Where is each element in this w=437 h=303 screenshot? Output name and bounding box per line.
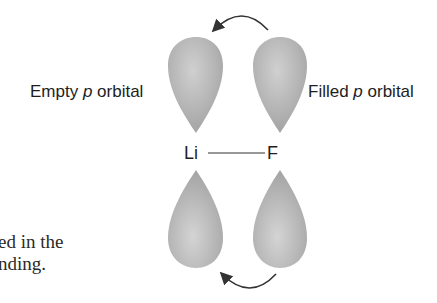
caption-line-1: ed in the <box>0 232 63 251</box>
label-text: Filled <box>308 82 353 101</box>
top-left-orbital-lobe <box>168 37 223 133</box>
top-right-orbital-lobe <box>253 37 307 133</box>
label-text: orbital <box>363 82 414 101</box>
bottom-curved-arrow <box>222 274 276 288</box>
orbital-diagram <box>0 0 437 303</box>
fluorine-atom-label: F <box>267 144 278 162</box>
lithium-atom-label: Li <box>184 144 198 162</box>
bottom-right-orbital-lobe <box>253 170 307 268</box>
label-italic-p: p <box>83 82 92 101</box>
bottom-left-orbital-lobe <box>168 170 223 268</box>
empty-p-orbital-label: Empty p orbital <box>30 83 143 100</box>
filled-p-orbital-label: Filled p orbital <box>308 83 414 100</box>
label-italic-p: p <box>353 82 362 101</box>
label-text: Empty <box>30 82 83 101</box>
label-text: orbital <box>92 82 143 101</box>
caption-line-2: nding. <box>0 254 46 273</box>
top-curved-arrow <box>214 16 268 30</box>
